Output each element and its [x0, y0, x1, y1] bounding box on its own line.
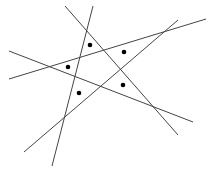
line-1 — [65, 6, 178, 135]
dot-2 — [122, 50, 127, 55]
dot-5 — [121, 83, 126, 88]
lines-group — [9, 6, 206, 166]
dot-3 — [66, 65, 71, 70]
line-3 — [9, 19, 206, 79]
dot-1 — [88, 43, 93, 48]
line-arrangement-diagram — [0, 0, 212, 171]
dots-group — [66, 43, 127, 96]
line-2 — [52, 6, 93, 166]
dot-4 — [77, 91, 82, 96]
line-5 — [24, 20, 178, 152]
